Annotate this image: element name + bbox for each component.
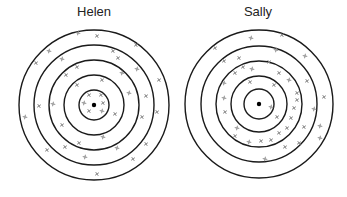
shot-mark [36, 103, 42, 109]
shot-mark [143, 141, 149, 147]
shot-mark [236, 55, 242, 61]
shot-mark [86, 92, 92, 98]
shot-mark [44, 147, 50, 153]
shot-mark [317, 123, 322, 128]
bullseye-dot [92, 103, 96, 107]
shot-mark [86, 108, 92, 114]
shot-mark [59, 122, 65, 128]
shot-mark [130, 156, 136, 162]
shot-mark [114, 145, 119, 150]
shot-mark [294, 97, 300, 103]
shot-mark [221, 95, 226, 100]
shot-mark [94, 33, 100, 39]
shot-mark [115, 55, 121, 61]
shot-mark [99, 108, 104, 113]
shot-mark [276, 70, 282, 76]
shot-mark [286, 77, 291, 82]
shot-mark [62, 144, 68, 150]
shot-mark [288, 115, 294, 121]
shot-mark [76, 140, 82, 146]
shot-mark [100, 100, 106, 106]
shot-mark [282, 144, 288, 150]
target-sally [185, 30, 333, 178]
target-diagrams [0, 0, 347, 197]
target-helen [19, 30, 169, 180]
bullseye-dot [257, 102, 261, 106]
shot-mark [134, 66, 139, 71]
shot-mark [156, 77, 162, 83]
shot-mark [258, 138, 264, 144]
shot-mark [317, 135, 322, 140]
shot-mark [222, 109, 228, 115]
shot-mark [100, 134, 105, 139]
shot-mark [247, 79, 253, 85]
shot-mark [268, 137, 274, 143]
shot-mark [112, 111, 118, 117]
shot-mark [248, 35, 253, 40]
shot-mark [291, 105, 297, 111]
shot-mark [246, 139, 251, 144]
shot-mark [321, 94, 327, 100]
shot-mark [301, 124, 307, 130]
shot-mark [139, 114, 145, 120]
shot-mark [274, 114, 280, 120]
shot-mark [46, 48, 51, 53]
shot-mark [82, 154, 87, 159]
shot-mark [81, 100, 86, 105]
shot-mark [304, 78, 310, 84]
shot-mark [284, 125, 290, 131]
shot-mark [154, 109, 160, 115]
shot-mark [22, 114, 27, 119]
shot-mark [276, 130, 282, 136]
shot-mark [234, 125, 239, 130]
shot-mark [302, 53, 307, 58]
shot-mark [59, 56, 64, 61]
shot-mark [249, 66, 254, 71]
shot-mark [63, 72, 69, 78]
shot-mark [311, 106, 316, 111]
shot-mark [99, 77, 105, 83]
shot-mark [94, 171, 100, 177]
shot-mark [143, 93, 149, 99]
shot-mark [126, 90, 131, 95]
shot-mark [50, 101, 55, 106]
